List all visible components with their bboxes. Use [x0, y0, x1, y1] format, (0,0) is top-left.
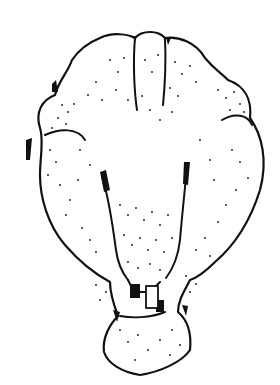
left-side-shadow [26, 138, 32, 160]
specimen-drawing [0, 0, 280, 385]
lower-right-shadow [182, 305, 188, 316]
illustration [0, 0, 280, 385]
joint-block-left [130, 284, 140, 298]
specimen-outline [38, 32, 263, 375]
left-edge-shadow [52, 80, 58, 92]
joint-element [146, 286, 158, 308]
